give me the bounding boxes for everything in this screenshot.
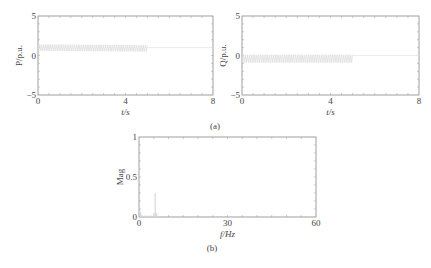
x-tick-label: 8 bbox=[417, 96, 422, 106]
y-axis-label: P/p.u. bbox=[14, 45, 24, 66]
x-axis-label: t/s bbox=[326, 107, 335, 117]
x-axis-label: f/Hz bbox=[220, 229, 236, 239]
y-tick-label: 5 bbox=[32, 11, 37, 21]
y-tick-label: 0 bbox=[133, 212, 138, 222]
caption-b: (b) bbox=[197, 243, 227, 253]
y-tick-label: −5 bbox=[230, 90, 240, 100]
y-tick-label: 5 bbox=[236, 11, 241, 21]
x-axis-label: t/s bbox=[121, 107, 130, 117]
y-axis-label: Mag bbox=[115, 168, 125, 185]
signal-line bbox=[242, 55, 353, 63]
x-tick-label: 4 bbox=[123, 96, 128, 106]
plot-frame bbox=[38, 16, 213, 95]
y-tick-label: 0 bbox=[236, 51, 241, 61]
x-tick-label: 30 bbox=[223, 218, 233, 228]
chart-spectrum: 0306000.51f/HzMag bbox=[100, 130, 330, 240]
x-tick-label: 0 bbox=[137, 218, 142, 228]
y-tick-label: 1 bbox=[133, 132, 138, 142]
plot-frame bbox=[139, 137, 316, 217]
chart-p: 048−505t/sP/p.u. bbox=[0, 0, 215, 125]
x-tick-label: 60 bbox=[312, 218, 322, 228]
x-tick-label: 0 bbox=[36, 96, 41, 106]
x-tick-label: 4 bbox=[328, 96, 333, 106]
y-tick-label: 0 bbox=[32, 51, 37, 61]
y-tick-label: 0.5 bbox=[126, 172, 138, 182]
y-tick-label: −5 bbox=[26, 90, 36, 100]
x-tick-label: 0 bbox=[240, 96, 245, 106]
y-axis-label: Q/p.u. bbox=[218, 44, 228, 67]
signal-line bbox=[38, 44, 147, 51]
chart-q: 048−505t/sQ/p.u. bbox=[215, 0, 431, 125]
